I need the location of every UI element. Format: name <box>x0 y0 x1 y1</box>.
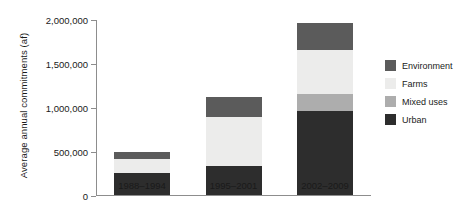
y-tick-label: 2,000,000 <box>46 15 88 26</box>
y-tick-label: 0 <box>83 191 88 202</box>
y-axis-line <box>96 20 97 196</box>
legend-item-urban[interactable]: Urban <box>385 114 453 125</box>
y-tick-label: 500,000 <box>54 147 88 158</box>
y-tick-mark <box>91 20 96 21</box>
plot-area: 0500,0001,000,0001,500,0002,000,000 <box>96 20 371 196</box>
bar-segment-mixed-uses[interactable] <box>297 94 353 111</box>
legend-swatch-icon <box>385 96 396 107</box>
legend-item-farms[interactable]: Farms <box>385 78 453 89</box>
legend-label: Urban <box>402 115 427 125</box>
bar-segment-environment[interactable] <box>297 23 353 50</box>
legend-label: Farms <box>402 79 428 89</box>
y-tick-mark <box>91 152 96 153</box>
x-axis-line <box>96 195 371 196</box>
bar-chart: Average annual commitments (af) 0500,000… <box>0 0 463 216</box>
chart-legend: EnvironmentFarmsMixed usesUrban <box>385 60 453 125</box>
legend-swatch-icon <box>385 60 396 71</box>
y-tick-label: 1,500,000 <box>46 59 88 70</box>
legend-item-mixed-uses[interactable]: Mixed uses <box>385 96 453 107</box>
bar-segment-farms[interactable] <box>206 117 262 166</box>
bar-segment-farms[interactable] <box>297 50 353 94</box>
y-tick-mark <box>91 196 96 197</box>
bar-segment-environment[interactable] <box>114 152 170 159</box>
x-axis-label: 2002–2009 <box>265 180 385 191</box>
legend-label: Environment <box>402 61 453 71</box>
legend-label: Mixed uses <box>402 97 448 107</box>
legend-item-environment[interactable]: Environment <box>385 60 453 71</box>
y-axis-title: Average annual commitments (af) <box>18 21 29 191</box>
y-tick-mark <box>91 64 96 65</box>
y-tick-mark <box>91 108 96 109</box>
legend-swatch-icon <box>385 78 396 89</box>
legend-swatch-icon <box>385 114 396 125</box>
bar-segment-environment[interactable] <box>206 97 262 117</box>
bar-segment-farms[interactable] <box>114 159 170 173</box>
bar-2002-2009[interactable] <box>297 23 353 195</box>
y-tick-label: 1,000,000 <box>46 103 88 114</box>
